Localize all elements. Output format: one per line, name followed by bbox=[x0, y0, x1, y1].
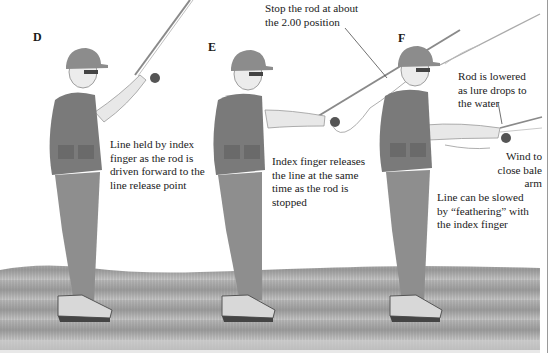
caption-e-line: stopped bbox=[272, 196, 365, 210]
callout-rod-lowered: Rod is lowered as lure drops to the wate… bbox=[458, 70, 527, 111]
step-label-d: D bbox=[33, 30, 42, 45]
callout-feathering-line: the index finger bbox=[437, 218, 529, 232]
callout-rod-lowered-line: as lure drops to bbox=[458, 84, 527, 98]
callout-feathering: Line can be slowed by “feathering” with … bbox=[437, 191, 529, 232]
callout-feathering-line: Line can be slowed bbox=[437, 191, 529, 205]
callout-stop-rod: Stop the rod at about the 2.00 position bbox=[265, 2, 358, 29]
right-border bbox=[547, 0, 548, 353]
callout-wind-bale-line: Wind to bbox=[480, 150, 542, 164]
callout-wind-bale: Wind to close bale arm bbox=[480, 150, 542, 191]
caption-d-line: finger as the rod is bbox=[110, 152, 205, 166]
callout-wind-bale-line: arm bbox=[480, 177, 542, 191]
callout-stop-rod-line: the 2.00 position bbox=[265, 16, 358, 30]
caption-e-line: the line at the same bbox=[272, 169, 365, 183]
caption-e-line: time as the rod is bbox=[272, 182, 365, 196]
caption-e: Index finger releases the line at the sa… bbox=[272, 155, 365, 209]
callout-rod-lowered-line: the water bbox=[458, 97, 527, 111]
caption-d-line: line release point bbox=[110, 179, 205, 193]
caption-d-line: driven forward to the bbox=[110, 165, 205, 179]
spinning-cast-illustration: D E F Line held by index finger as the r… bbox=[0, 0, 552, 353]
callout-rod-lowered-line: Rod is lowered bbox=[458, 70, 527, 84]
callout-feathering-line: by “feathering” with bbox=[437, 205, 529, 219]
step-label-e: E bbox=[208, 40, 216, 55]
caption-d-line: Line held by index bbox=[110, 138, 205, 152]
caption-d: Line held by index finger as the rod is … bbox=[110, 138, 205, 192]
caption-e-line: Index finger releases bbox=[272, 155, 365, 169]
callout-wind-bale-line: close bale bbox=[480, 164, 542, 178]
callout-stop-rod-line: Stop the rod at about bbox=[265, 2, 358, 16]
step-label-f: F bbox=[398, 31, 405, 46]
